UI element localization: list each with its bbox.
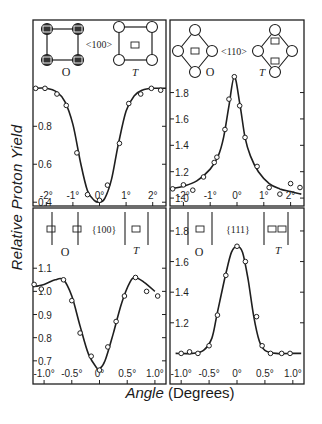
data-point — [43, 86, 48, 91]
data-point — [201, 175, 206, 180]
data-point — [207, 343, 212, 348]
proton-site-icon — [268, 226, 276, 232]
data-point — [254, 314, 259, 319]
data-point — [255, 164, 260, 169]
x-tick-label: -1.0° — [171, 368, 192, 379]
data-point — [158, 88, 163, 93]
x-tick-label: 1.0° — [146, 368, 164, 379]
y-tick-label: 1.4 — [175, 287, 189, 298]
x-tick-label: -0.5° — [198, 368, 219, 379]
x-tick-label: 0.5° — [118, 368, 136, 379]
data-point — [69, 298, 74, 303]
data-point — [268, 351, 273, 356]
data-point — [179, 351, 184, 356]
data-point — [33, 86, 38, 91]
data-point — [64, 103, 69, 108]
data-point — [215, 313, 220, 318]
data-point — [89, 354, 94, 359]
data-point — [122, 294, 127, 299]
y-tick-label: 0.9 — [38, 310, 52, 321]
y-tick-label: 0.8 — [38, 333, 52, 344]
proton-site-icon — [271, 58, 279, 64]
panel-bottom-right: -1.0°-0.5°0°0.5°1.0°1.21.41.61.8{111}OT — [170, 208, 304, 384]
fit-curve — [176, 246, 302, 353]
y-tick-label: 1.4 — [175, 140, 189, 151]
proton-site-icon — [196, 226, 204, 232]
panel-top-right: -2°-1°0°1°2°1.01.21.41.61.8<110>OT — [170, 20, 304, 206]
data-point — [279, 351, 284, 356]
y-tick-label: 0.6 — [38, 159, 52, 170]
crystal-inset-top-left: <100>OT — [42, 22, 158, 80]
proton-site-icon — [191, 48, 199, 54]
x-tick-label: 0.5° — [256, 368, 274, 379]
inset-label: {100} — [92, 224, 117, 235]
data-point — [32, 282, 37, 287]
data-point — [97, 368, 102, 373]
data-point — [181, 183, 186, 188]
x-tick-label: 1° — [259, 190, 269, 201]
x-axis-label-italic: Angle — [125, 384, 163, 401]
inset-label: T — [132, 66, 139, 78]
data-point — [105, 183, 110, 188]
x-tick-label: -1° — [66, 190, 79, 201]
data-point — [235, 244, 240, 249]
y-tick-label: 1.2 — [175, 318, 189, 329]
x-tick-label: 0° — [232, 190, 242, 201]
data-point — [117, 141, 122, 146]
fit-curve — [33, 88, 166, 202]
data-point — [298, 185, 303, 190]
data-point — [187, 350, 192, 355]
inset-label: O — [61, 245, 70, 259]
y-tick-label: 1.0 — [175, 193, 189, 204]
crystal-inset-bottom-left: {100}OT — [47, 212, 148, 259]
data-point — [224, 273, 229, 278]
data-point — [126, 101, 131, 106]
data-point — [144, 289, 149, 294]
y-tick-label: 0.7 — [38, 356, 52, 367]
proton-site-icon — [47, 226, 55, 232]
data-point — [170, 187, 175, 192]
proton-site-icon — [73, 226, 81, 232]
y-tick-label: 1.2 — [175, 167, 189, 178]
fit-curve — [170, 77, 301, 194]
x-tick-label: -1° — [204, 190, 217, 201]
data-point — [78, 331, 83, 336]
proton-site-icon — [131, 42, 139, 48]
data-point — [278, 192, 283, 197]
x-tick-label: 2° — [148, 190, 158, 201]
data-point — [155, 294, 160, 299]
x-tick-label: -0.5° — [61, 368, 82, 379]
data-point — [243, 259, 248, 264]
data-point — [106, 345, 111, 350]
data-point — [288, 181, 293, 186]
y-tick-label: 1.6 — [175, 257, 189, 268]
inset-label: O — [62, 65, 71, 79]
data-point — [232, 74, 237, 79]
inset-label: {111} — [226, 224, 250, 235]
data-point — [133, 275, 138, 280]
inset-label: T — [133, 244, 140, 256]
data-point — [75, 151, 80, 156]
data-point — [267, 185, 272, 190]
x-tick-label: 1.0° — [284, 368, 302, 379]
x-tick-label: 0° — [232, 368, 242, 379]
y-axis-label-text: Relative Proton Yield — [8, 131, 25, 271]
panel-top-left: -2°-1°0°1°2°0.40.60.8<100>OT — [33, 20, 166, 208]
data-point — [149, 86, 154, 91]
y-tick-label: 1.8 — [175, 226, 189, 237]
data-point — [223, 127, 228, 132]
data-point — [243, 135, 248, 140]
x-tick-label: -1.0° — [33, 368, 54, 379]
figure-canvas: -2°-1°0°1°2°0.40.60.8<100>OT-2°-1°0°1°2°… — [0, 0, 322, 424]
x-axis-label-rest: (Degrees) — [164, 384, 235, 401]
y-tick-label: 1.6 — [175, 114, 189, 125]
y-tick-label: 1.8 — [175, 88, 189, 99]
y-tick-label: 0.4 — [38, 197, 52, 208]
y-tick-label: 0.8 — [38, 121, 52, 132]
inset-label: T — [259, 66, 266, 78]
data-point — [237, 103, 242, 108]
data-point — [39, 287, 44, 292]
inset-label: O — [195, 245, 204, 259]
proton-site-icon — [132, 226, 140, 232]
data-point — [97, 198, 102, 203]
